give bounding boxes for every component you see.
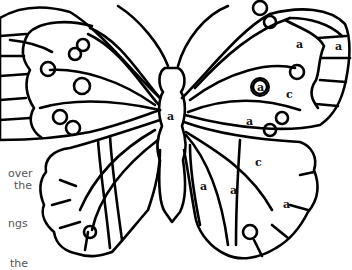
label-right-forewing-circle: a bbox=[257, 81, 264, 94]
left-hindwing-outline bbox=[41, 120, 161, 256]
label-right-hindwing-edge: a bbox=[283, 198, 290, 211]
label-right-forewing-edge: a bbox=[335, 40, 342, 53]
label-right-hindwing-inner2: a bbox=[230, 184, 237, 197]
body-outline bbox=[157, 68, 185, 222]
label-right-hindwing-inner1: a bbox=[200, 180, 207, 193]
label-body: a bbox=[167, 110, 174, 123]
label-right-forewing-lower: a bbox=[246, 115, 253, 128]
label-right-forewing-top: a bbox=[296, 38, 303, 51]
label-right-hindwing-upper: c bbox=[255, 156, 262, 169]
label-right-forewing-mid: c bbox=[286, 88, 293, 101]
